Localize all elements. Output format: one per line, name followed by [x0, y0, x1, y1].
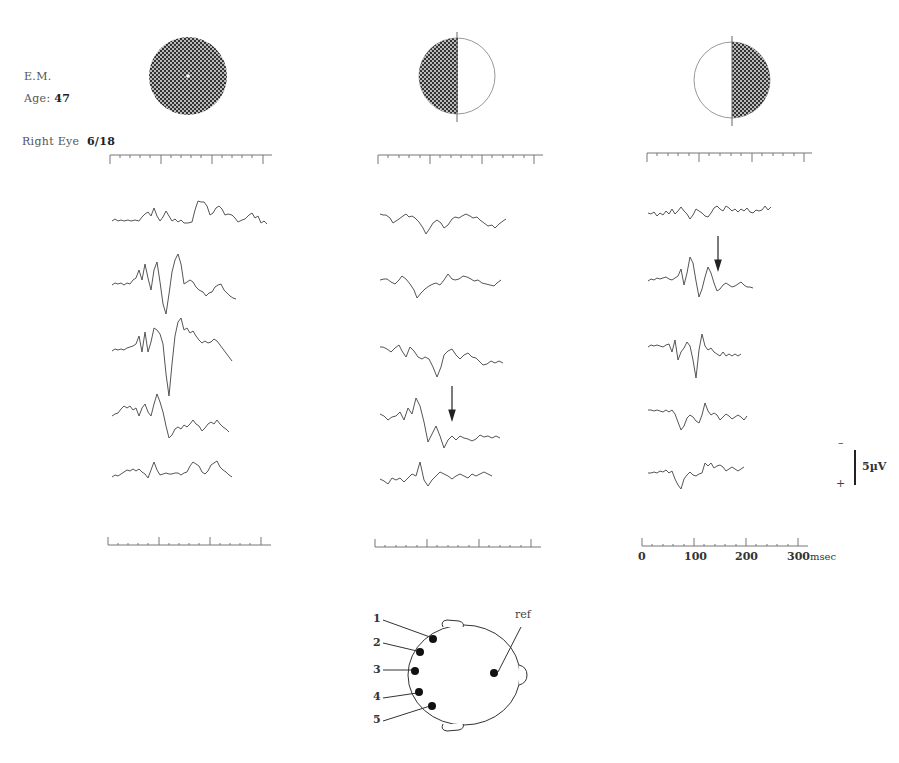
trace-3-4	[648, 403, 747, 430]
trace-2-3	[380, 345, 503, 377]
trace-3-1	[648, 206, 771, 219]
time-unit: msec	[810, 551, 836, 562]
trace-2-4	[380, 398, 500, 448]
trace-1-2	[112, 254, 236, 314]
stimulus-right-half-icon	[694, 36, 770, 126]
waveforms-right-half	[648, 206, 771, 489]
trace-3-2	[648, 257, 753, 297]
trace-1-1	[112, 201, 267, 224]
stimulus-left-half-icon	[419, 32, 495, 122]
trace-1-3	[112, 318, 232, 396]
arrow-right-half-ch2	[715, 236, 721, 270]
vep-figure	[0, 0, 899, 763]
head-diagram	[383, 620, 527, 731]
trace-3-3	[648, 334, 741, 378]
trace-1-4	[112, 394, 229, 438]
trace-1-5	[112, 461, 232, 478]
time-tick-200: 200	[735, 550, 758, 563]
time-tick-300: 300msec	[787, 550, 836, 563]
waveforms-left-half	[380, 214, 506, 486]
trace-2-1	[380, 214, 506, 234]
arrow-left-half-ch4	[449, 386, 455, 420]
trace-3-5	[648, 463, 744, 489]
top-ruler-3	[647, 153, 812, 162]
scale-negative-sign: –	[838, 436, 844, 449]
electrode-label-3: 3	[373, 663, 381, 676]
electrode-label-2: 2	[373, 636, 381, 649]
top-ruler-1	[110, 155, 272, 164]
time-axis-2	[375, 539, 541, 547]
time-tick-0: 0	[638, 550, 646, 563]
waveforms-full-field	[112, 201, 267, 478]
trace-2-2	[380, 274, 501, 298]
reference-label: ref	[515, 608, 531, 621]
electrode-label-5: 5	[373, 713, 381, 726]
time-tick-300-value: 300	[787, 550, 810, 563]
electrode-label-4: 4	[373, 690, 381, 703]
time-tick-100: 100	[684, 550, 707, 563]
stimulus-full-field-icon	[149, 37, 227, 115]
scale-label: 5µV	[862, 460, 886, 473]
scale-positive-sign: +	[836, 477, 845, 490]
time-axis-3	[642, 538, 808, 546]
electrode-label-1: 1	[373, 612, 381, 625]
top-ruler-2	[378, 155, 543, 164]
trace-2-5	[380, 462, 492, 486]
time-axis-1	[108, 537, 271, 545]
